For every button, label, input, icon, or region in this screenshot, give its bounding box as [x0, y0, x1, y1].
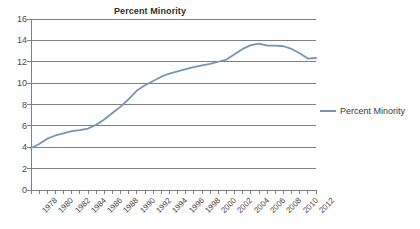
- x-tick-label: 1996: [187, 196, 206, 215]
- x-tick-label: 2002: [236, 196, 255, 215]
- x-tick-label: 1988: [122, 196, 141, 215]
- x-tick-label: 1978: [40, 196, 59, 215]
- legend-label-percent-minority: Percent Minority: [340, 106, 405, 116]
- x-tick-label: 1990: [138, 196, 157, 215]
- x-tick-label: 1982: [73, 196, 92, 215]
- legend-line-icon: [320, 110, 336, 112]
- x-tick-label: 1986: [105, 196, 124, 215]
- x-tick-label: 2006: [268, 196, 287, 215]
- x-tick-label: 1998: [203, 196, 222, 215]
- x-tick-label: 2012: [317, 196, 336, 215]
- x-tick-label: 1994: [170, 196, 189, 215]
- chart-container: Percent Minority 0246810121416 197819801…: [0, 0, 420, 229]
- x-tick-label: 2010: [301, 196, 320, 215]
- x-tick-label: 1992: [154, 196, 173, 215]
- x-tick-label: 2004: [252, 196, 271, 215]
- chart-legend: Percent Minority: [320, 106, 405, 116]
- x-tick-label: 1984: [89, 196, 108, 215]
- x-tick-label: 1980: [56, 196, 75, 215]
- x-tick-label: 2000: [219, 196, 238, 215]
- x-tick-label: 2008: [284, 196, 303, 215]
